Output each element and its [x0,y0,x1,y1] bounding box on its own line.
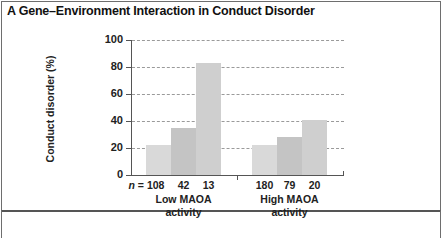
n-label: 79 [277,179,303,191]
bar [277,137,302,175]
bar [196,63,221,175]
x-tick-mark [343,171,344,176]
y-tick-label: 0 [93,168,123,180]
y-tick-label: 100 [93,33,123,45]
bar [252,145,277,175]
x-tick-mark [237,175,238,180]
gridline [132,67,344,68]
y-tick-label: 20 [93,141,123,153]
y-axis-label: Conduct disorder (%) [44,49,56,169]
chart-title: A Gene–Environment Interaction in Conduc… [7,4,315,18]
n-label: 13 [196,179,222,191]
n-label: 180 [252,179,278,191]
y-axis [131,40,132,176]
gridline [132,40,344,41]
group-label: Low MAOAactivity [139,193,229,219]
y-tick-label: 80 [93,60,123,72]
y-tick-label: 60 [93,87,123,99]
bar [302,120,327,175]
n-label: n = 108 [122,179,172,191]
group-label: High MAOAactivity [245,193,335,219]
bar [171,128,196,175]
gridline [132,94,344,95]
n-label: 20 [302,179,328,191]
y-tick-label: 40 [93,114,123,126]
n-label: 42 [171,179,197,191]
bar [146,145,171,175]
